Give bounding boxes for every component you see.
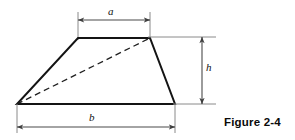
label-height-h: h — [206, 62, 212, 73]
label-side-a: a — [108, 6, 114, 17]
figure-container: a b h Figure 2-4 — [0, 0, 295, 140]
trapezoid-outline — [17, 38, 175, 104]
dashed-diagonal — [17, 38, 150, 104]
figure-caption: Figure 2-4 — [224, 116, 281, 128]
label-side-b: b — [89, 112, 95, 123]
